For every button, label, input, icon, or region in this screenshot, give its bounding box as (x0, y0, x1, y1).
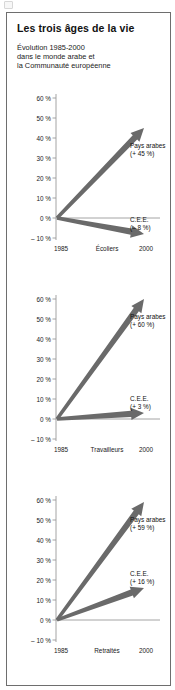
subtitle-block: Évolution 1985-2000 dans le monde arabe … (17, 43, 163, 71)
series-name: C.E.E. (130, 395, 151, 403)
scan-artifact-speck (4, 1, 13, 9)
series-name: Pays arabes (130, 516, 166, 524)
figure-page: Les trois âges de la vie Évolution 1985-… (0, 0, 175, 690)
charts-container: 60 %50 %40 %30 %20 %10 %0 %– 10 %Pays ar… (15, 76, 163, 674)
x-tick-start: 1985 (54, 446, 68, 453)
series-value: (– 8 %) (130, 224, 151, 232)
series-name: C.E.E. (130, 570, 154, 578)
series-name: Pays arabes (130, 313, 166, 321)
x-tick-end: 2000 (139, 647, 153, 654)
series-value: (+ 60 %) (130, 321, 166, 329)
x-tick-start: 1985 (54, 245, 68, 252)
series-name: C.E.E. (130, 216, 151, 224)
chart-travailleurs: 60 %50 %40 %30 %20 %10 %0 %– 10 %Pays ar… (15, 277, 172, 473)
figure-content: Les trois âges de la vie Évolution 1985-… (7, 13, 170, 685)
x-tick-start: 1985 (54, 647, 68, 654)
annotation-cee: C.E.E.(+ 3 %) (130, 395, 151, 411)
series-value: (+ 59 %) (130, 524, 166, 532)
annotation-pays-arabes: Pays arabes(+ 59 %) (130, 516, 166, 532)
annotation-pays-arabes: Pays arabes(+ 60 %) (130, 313, 166, 329)
subtitle-line-1: Évolution 1985-2000 (17, 43, 163, 52)
x-axis-category-label: Écoliers (96, 245, 119, 252)
x-tick-end: 2000 (139, 446, 153, 453)
subtitle-line-3: la Communauté européenne (17, 61, 163, 70)
series-value: (+ 45 %) (130, 150, 166, 158)
series-value: (+ 3 %) (130, 403, 151, 411)
chart-écoliers: 60 %50 %40 %30 %20 %10 %0 %– 10 %Pays ar… (15, 76, 172, 272)
annotation-cee: C.E.E.(– 8 %) (130, 216, 151, 232)
annotation-pays-arabes: Pays arabes(+ 45 %) (130, 142, 166, 158)
x-tick-end: 2000 (139, 245, 153, 252)
subtitle-line-2: dans le monde arabe et (17, 52, 163, 61)
page-title: Les trois âges de la vie (17, 22, 163, 34)
plot-area (15, 76, 172, 272)
x-axis-category-label: Retraités (94, 647, 120, 654)
x-axis-category-label: Travailleurs (91, 446, 124, 453)
chart-retraités: 60 %50 %40 %30 %20 %10 %0 %– 10 %Pays ar… (15, 478, 172, 674)
annotation-cee: C.E.E.(+ 16 %) (130, 570, 154, 586)
series-value: (+ 16 %) (130, 578, 154, 586)
figure-frame: Les trois âges de la vie Évolution 1985-… (6, 12, 171, 686)
plot-area (15, 277, 172, 473)
series-name: Pays arabes (130, 142, 166, 150)
